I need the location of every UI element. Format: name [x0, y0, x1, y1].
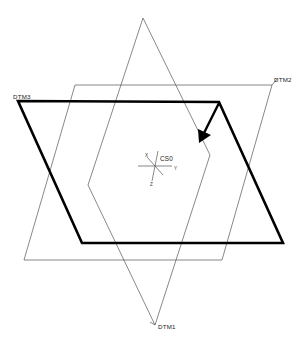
label-dtm1: DTM1: [158, 323, 176, 330]
label-dtm3: DTM3: [13, 93, 31, 100]
cs0-axis-z: [152, 166, 155, 181]
cad-viewport: DTM3 DTM2 DTM1 CS0 X Y Z: [0, 0, 304, 348]
cs0-axis-z-positive: [155, 151, 158, 166]
datum-plane-dtm2[interactable]: [24, 85, 272, 260]
datum-plane-dtm1[interactable]: [88, 18, 210, 325]
normal-direction-arrow-shaft: [204, 103, 219, 133]
label-cs0: CS0: [160, 155, 173, 162]
label-axis-z: Z: [150, 182, 153, 187]
label-axis-y: Y: [174, 166, 177, 171]
label-dtm2: DTM2: [274, 76, 292, 83]
cs0-axis-x-negative: [155, 166, 163, 175]
cad-drawing-canvas[interactable]: DTM3 DTM2 DTM1 CS0 X Y Z: [0, 0, 304, 348]
datum-plane-dtm3[interactable]: [18, 101, 283, 243]
label-axis-x: X: [145, 153, 148, 158]
cs0-axis-x: [147, 157, 155, 166]
